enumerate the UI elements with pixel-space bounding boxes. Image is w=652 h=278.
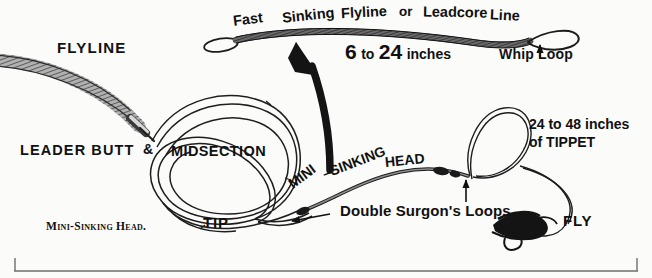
measurement-max: 24 [379,40,402,63]
flow-arrow-icon [288,42,330,170]
headline-word-4: Leadcore [423,3,488,20]
headline-word-5: Line [490,6,521,24]
flyline-graphic [0,55,154,141]
label-leader-butt: LEADER BUTT [20,143,134,158]
diagram-canvas: Fast Sinking Flyline or Leadcore Line 6 … [0,0,652,278]
label-flyline: FLYLINE [57,40,127,55]
label-tippet-length: 24 to 48 inches of TIPPET [529,116,629,151]
measurement-6-to-24-inches: 6 to 24 inches [345,40,451,64]
measurement-unit: inches [407,46,451,62]
figure-caption: Mini-Sinking Head. [46,221,146,233]
label-fly: FLY [563,213,592,228]
headline-word-3: or [399,4,413,19]
page-rule [14,258,638,271]
label-midsection: MIDSECTION [171,144,266,159]
headline-word-2: Flyline [341,3,388,21]
label-ampersand: & [143,142,153,156]
leader-coils-graphic [151,96,312,232]
measurement-joiner: to [361,46,374,62]
label-whip-loop: Whip Loop [499,47,573,61]
measurement-min: 6 [345,40,357,63]
tippet-line-2: of TIPPET [529,134,629,152]
label-tip: TIP [203,215,229,230]
tippet-line-1: 24 to 48 inches [529,116,629,134]
label-double-surgeons-loops: Double Surgon's Loops [340,203,511,218]
